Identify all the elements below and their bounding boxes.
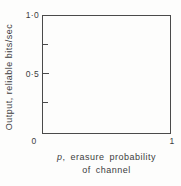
chart-figure: Output, reliable bits/sec 1·0 0·5 0 1 p,… [0,0,181,186]
x-axis-label-line2: of channel [36,164,177,177]
y-tick-label-1-0: 1·0 [16,10,39,20]
x-axis-label-line1: p, erasure probability [36,151,177,164]
x-tick-label-1: 1 [167,136,177,146]
y-tick-label-0-5: 0·5 [16,69,39,79]
origin-tick-label-0: 0 [29,136,39,146]
y-tick-0-5 [43,73,49,74]
x-axis-label: p, erasure probability of channel [36,151,177,176]
y-minor-tick-0-25 [43,102,48,103]
x-axis-label-text: , erasure probability [62,152,156,162]
y-minor-tick-0-75 [43,44,48,45]
plot-area [42,15,171,134]
y-axis-label: Output, reliable bits/sec [4,24,14,131]
